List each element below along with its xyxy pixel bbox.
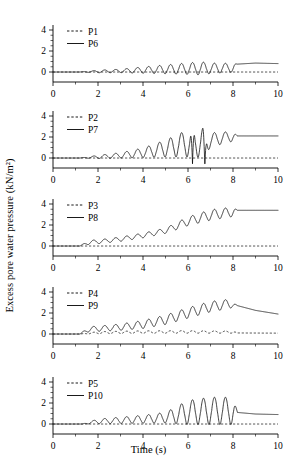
x-axis-ticks: 0246810: [51, 256, 283, 273]
y-tick-label: 2: [41, 398, 46, 408]
axes: [53, 287, 278, 344]
legend-label-P4: P4: [88, 289, 98, 299]
axes: [53, 111, 278, 168]
legend: P5P10: [67, 379, 103, 402]
x-tick-label: 10: [273, 351, 283, 361]
x-tick-label: 4: [141, 263, 146, 273]
axes: [53, 377, 278, 434]
data-traces: [53, 62, 278, 75]
y-tick-label: 2: [41, 308, 46, 318]
y-tick-label: 4: [41, 377, 46, 387]
x-tick-label: 10: [273, 263, 283, 273]
x-tick-label: 0: [51, 175, 56, 185]
legend: P3P8: [67, 201, 98, 224]
panel-5: 0240246810P5P10: [0, 362, 297, 452]
x-tick-label: 8: [231, 263, 236, 273]
x-tick-label: 4: [141, 175, 146, 185]
legend-label-P8: P8: [88, 213, 98, 223]
x-tick-label: 2: [96, 175, 101, 185]
y-axis-ticks: 024: [41, 25, 53, 77]
x-axis-title: Time (s): [0, 444, 297, 455]
panel-3: 0240246810P3P8: [0, 184, 297, 274]
x-tick-label: 0: [51, 263, 56, 273]
legend-label-P6: P6: [88, 39, 98, 49]
legend-label-P5: P5: [88, 379, 98, 389]
legend-label-P2: P2: [88, 113, 98, 123]
panel-4: 0240246810P4P9: [0, 272, 297, 362]
x-tick-label: 6: [186, 351, 191, 361]
legend-label-P3: P3: [88, 201, 98, 211]
x-tick-label: 8: [231, 351, 236, 361]
x-tick-label: 8: [231, 175, 236, 185]
legend-label-P1: P1: [88, 27, 98, 37]
trace-P8: [53, 208, 278, 246]
x-axis-ticks: 0246810: [51, 344, 283, 361]
axes: [53, 199, 278, 256]
y-axis-ticks: 024: [41, 377, 53, 429]
trace-P7: [53, 128, 278, 164]
x-tick-label: 2: [96, 263, 101, 273]
legend: P2P7: [67, 113, 98, 136]
y-tick-label: 4: [41, 25, 46, 35]
y-tick-label: 2: [41, 46, 46, 56]
y-tick-label: 4: [41, 287, 46, 297]
data-traces: [53, 300, 278, 334]
legend: P4P9: [67, 289, 98, 312]
y-tick-label: 0: [41, 153, 46, 163]
trace-P10: [53, 397, 278, 424]
legend-label-P7: P7: [88, 125, 98, 135]
panel-1: 0240246810P1P6: [0, 10, 297, 100]
data-traces: [53, 128, 278, 164]
y-tick-label: 2: [41, 132, 46, 142]
legend-label-P10: P10: [88, 391, 103, 401]
legend-label-P9: P9: [88, 301, 98, 311]
y-tick-label: 4: [41, 199, 46, 209]
data-traces: [53, 208, 278, 246]
data-traces: [53, 397, 278, 424]
x-tick-label: 6: [186, 175, 191, 185]
figure-excess-pore-water-pressure: Excess pore water pressure (kN/m²) 02402…: [0, 0, 297, 471]
y-tick-label: 2: [41, 220, 46, 230]
y-tick-label: 4: [41, 111, 46, 121]
x-tick-label: 6: [186, 263, 191, 273]
legend: P1P6: [67, 27, 98, 49]
x-tick-label: 4: [141, 351, 146, 361]
x-axis-ticks: 0246810: [51, 168, 283, 185]
y-axis-ticks: 024: [41, 199, 53, 251]
x-tick-label: 10: [273, 175, 283, 185]
panel-2: 0240246810P2P7: [0, 96, 297, 186]
y-tick-label: 0: [41, 241, 46, 251]
trace-P6: [53, 62, 278, 75]
y-tick-label: 0: [41, 67, 46, 77]
x-tick-label: 0: [51, 351, 56, 361]
y-tick-label: 0: [41, 329, 46, 339]
y-axis-ticks: 024: [41, 111, 53, 163]
trace-P9: [53, 300, 278, 334]
y-axis-ticks: 024: [41, 287, 53, 339]
y-tick-label: 0: [41, 419, 46, 429]
x-tick-label: 2: [96, 351, 101, 361]
